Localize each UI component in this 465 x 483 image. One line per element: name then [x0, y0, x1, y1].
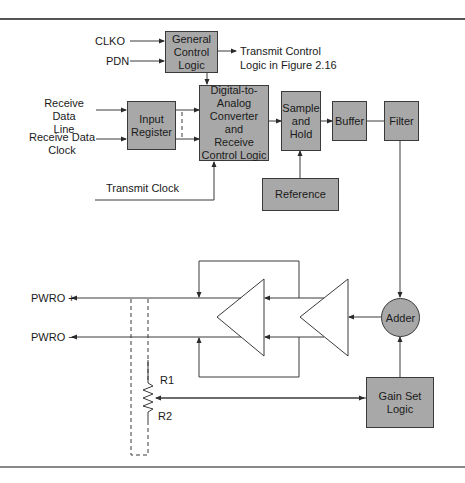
dac-block: Digital-to- Analog Converter and Receive… [199, 85, 269, 161]
r1-label: R1 [160, 374, 174, 387]
input-register-block: Input Register [127, 101, 176, 150]
filter-label: Filter [389, 115, 413, 128]
receive-data-clock-label: Receive Data Clock [28, 131, 96, 157]
dac-label: Digital-to- Analog Converter and Receive… [200, 84, 268, 162]
pwro-plus-label: PWRO + [31, 292, 75, 305]
adder-label: Adder [386, 312, 415, 324]
adder-node: Adder [381, 298, 420, 337]
transmit-clock-label: Transmit Clock [106, 182, 179, 195]
cable-dashed-left [131, 299, 148, 455]
sample-and-hold-label: Sample and Hold [282, 102, 319, 141]
filter-block: Filter [384, 101, 419, 141]
gain-set-logic-block: Gain Set Logic [366, 377, 434, 428]
reference-block: Reference [262, 178, 339, 211]
buffer-block: Buffer [332, 101, 367, 141]
pdn-label: PDN [106, 55, 129, 68]
general-control-logic-label: General Control Logic [172, 33, 211, 72]
pwro-minus-label: PWRO − [31, 331, 75, 344]
r2-label: R2 [158, 410, 172, 423]
amp2-triangle [300, 279, 348, 356]
clko-label: CLKO [95, 35, 125, 48]
resistor-zigzag [143, 383, 153, 412]
transmit-control-label: Transmit Control Logic in Figure 2.16 [240, 44, 337, 72]
general-control-logic-block: General Control Logic [165, 31, 218, 73]
amp1-triangle [217, 279, 264, 356]
input-register-label: Input Register [131, 113, 172, 139]
buffer-label: Buffer [335, 115, 364, 128]
reference-label: Reference [275, 188, 326, 201]
sample-and-hold-block: Sample and Hold [281, 91, 321, 151]
gain-set-logic-label: Gain Set Logic [379, 390, 422, 416]
